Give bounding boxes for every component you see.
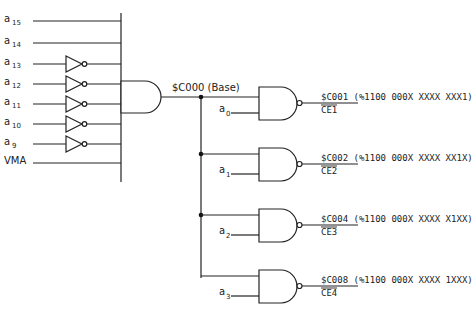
input-a15: a15 — [4, 13, 121, 27]
input-label: VMA — [4, 155, 26, 166]
base-label: $C000 (Base) — [172, 82, 240, 93]
input-label: a — [4, 96, 10, 107]
output-stage-4: a3$C008 (%1100 000X XXXX 1XXX)CE4 — [201, 270, 473, 303]
input-subscript: 9 — [12, 142, 16, 150]
input-label: a — [4, 76, 10, 87]
nand-gate — [259, 270, 297, 303]
chip-enable-label: CE1 — [321, 105, 337, 115]
address-input-subscript: 2 — [226, 232, 230, 240]
input-subscript: 11 — [12, 102, 21, 110]
output-stage-2: a1$C002 (%1100 000X XXXX XX1X)CE2 — [199, 148, 473, 181]
chip-enable-label: CE3 — [321, 227, 337, 237]
inverter-gate — [66, 56, 82, 72]
address-input-label: a — [219, 225, 225, 236]
decoder-diagram: a15a14a13a12a11a10a9VMA $C000 (Base) a0$… — [0, 0, 474, 321]
nand-bubble — [297, 223, 302, 228]
base-and-gate — [121, 81, 161, 113]
input-label: a — [4, 116, 10, 127]
nand-gate — [259, 87, 297, 120]
input-vma: VMA — [4, 155, 121, 166]
input-a13: a13 — [4, 56, 121, 72]
input-label: a — [4, 35, 10, 46]
inverter-gate — [66, 96, 82, 112]
address-label: $C001 (%1100 000X XXXX XXX1) — [321, 92, 473, 102]
input-a9: a9 — [4, 136, 121, 152]
address-input-subscript: 3 — [226, 293, 230, 301]
inverter-bubble — [82, 62, 87, 67]
input-a11: a11 — [4, 96, 121, 112]
inverter-bubble — [82, 102, 87, 107]
inverter-bubble — [82, 82, 87, 87]
nand-gate — [259, 209, 297, 242]
input-subscript: 12 — [12, 82, 21, 90]
input-a12: a12 — [4, 76, 121, 92]
input-a10: a10 — [4, 116, 121, 132]
address-input-subscript: 0 — [226, 110, 230, 118]
input-lines: a15a14a13a12a11a10a9VMA — [4, 13, 121, 166]
output-stage-1: a0$C001 (%1100 000X XXXX XXX1)CE1 — [199, 87, 473, 120]
address-label: $C008 (%1100 000X XXXX 1XXX) — [321, 275, 473, 285]
inverter-gate — [66, 76, 82, 92]
inverter-bubble — [82, 142, 87, 147]
nand-gate — [259, 148, 297, 181]
chip-enable-label: CE2 — [321, 166, 337, 176]
output-stages: a0$C001 (%1100 000X XXXX XXX1)CE1a1$C002… — [199, 87, 473, 303]
input-subscript: 14 — [12, 41, 21, 49]
address-input-label: a — [219, 286, 225, 297]
nand-bubble — [297, 101, 302, 106]
chip-enable-label: CE4 — [321, 288, 337, 298]
input-subscript: 13 — [12, 62, 21, 70]
address-input-subscript: 1 — [226, 171, 230, 179]
input-subscript: 15 — [12, 19, 21, 27]
input-subscript: 10 — [12, 122, 21, 130]
address-input-label: a — [219, 164, 225, 175]
address-label: $C004 (%1100 000X XXXX X1XX) — [321, 214, 473, 224]
nand-bubble — [297, 284, 302, 289]
nand-bubble — [297, 162, 302, 167]
inverter-gate — [66, 136, 82, 152]
inverter-gate — [66, 116, 82, 132]
junction-dot — [199, 95, 204, 100]
input-label: a — [4, 136, 10, 147]
output-stage-3: a2$C004 (%1100 000X XXXX X1XX)CE3 — [199, 209, 473, 242]
inverter-bubble — [82, 122, 87, 127]
input-label: a — [4, 13, 10, 24]
input-a14: a14 — [4, 35, 121, 49]
address-label: $C002 (%1100 000X XXXX XX1X) — [321, 153, 473, 163]
input-label: a — [4, 56, 10, 67]
address-input-label: a — [219, 103, 225, 114]
